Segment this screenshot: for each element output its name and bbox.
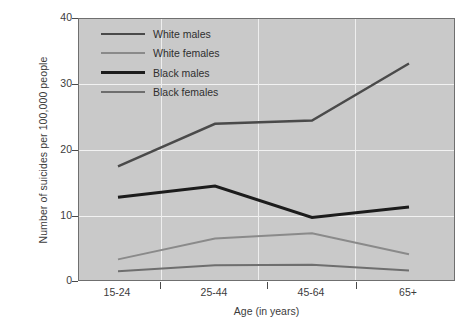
- legend-label: Black females: [153, 86, 218, 98]
- x-tick-label: 65+: [368, 286, 448, 298]
- y-tick-label: 40: [38, 11, 72, 23]
- y-tick-label: 10: [38, 209, 72, 221]
- legend-swatch-line: [101, 52, 145, 54]
- legend-item-white-females: White females: [101, 44, 220, 64]
- series-line-black-females: [118, 265, 409, 272]
- x-tick-label: 15-24: [77, 286, 157, 298]
- x-axis-title: Age (in years): [78, 305, 455, 317]
- y-tick-label: 30: [38, 77, 72, 89]
- series-line-white-females: [118, 233, 409, 259]
- legend: White males White females Black males Bl…: [101, 24, 220, 102]
- legend-label: Black males: [153, 67, 210, 79]
- x-tick-mark: [267, 282, 268, 289]
- chart-figure: Number of suicides per 100,000 people 40…: [0, 0, 472, 326]
- legend-swatch-line: [101, 33, 145, 35]
- legend-item-white-males: White males: [101, 24, 220, 44]
- y-tick-label: 20: [38, 143, 72, 155]
- x-tick-mark: [356, 282, 357, 289]
- x-tick-mark: [160, 282, 161, 289]
- legend-item-black-females: Black females: [101, 83, 220, 103]
- y-tick-label: 0: [38, 274, 72, 286]
- series-line-black-males: [118, 186, 409, 217]
- y-tick-mark: [72, 281, 78, 282]
- legend-swatch-line: [101, 71, 145, 74]
- x-tick-label: 45-64: [271, 286, 351, 298]
- legend-label: White males: [153, 28, 211, 40]
- legend-item-black-males: Black males: [101, 63, 220, 83]
- legend-swatch-line: [101, 91, 145, 93]
- legend-label: White females: [153, 47, 220, 59]
- x-tick-label: 25-44: [174, 286, 254, 298]
